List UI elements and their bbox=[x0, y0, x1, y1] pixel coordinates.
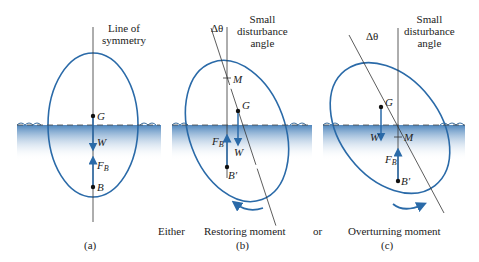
symmetry-label: Line ofsymmetry bbox=[102, 22, 146, 46]
caption-c: (c) bbox=[381, 239, 393, 251]
label-w-a: W bbox=[97, 136, 106, 148]
caption-b: (b) bbox=[236, 239, 249, 251]
point-g-a bbox=[91, 114, 95, 118]
label-m-b: M bbox=[233, 73, 242, 85]
panel-a bbox=[17, 27, 160, 222]
either-label: Either bbox=[158, 225, 185, 237]
or-label: or bbox=[313, 225, 322, 237]
point-b-c bbox=[396, 179, 400, 183]
caption-a: (a) bbox=[84, 239, 96, 251]
moment-label-c: Overturning moment bbox=[348, 225, 441, 237]
restoring-moment-arrow bbox=[236, 204, 263, 210]
label-b-a: B bbox=[97, 181, 104, 193]
point-b-a bbox=[91, 185, 95, 189]
point-g-c bbox=[379, 105, 383, 109]
overturning-moment-arrow bbox=[393, 204, 422, 209]
label-b-c: B' bbox=[401, 175, 410, 187]
label-w-c: W bbox=[370, 131, 379, 143]
label-w-b: W bbox=[234, 146, 243, 158]
angle-desc-c: Smalldisturbanceangle bbox=[404, 13, 455, 49]
label-m-c: M bbox=[404, 131, 413, 143]
label-g-b: G bbox=[242, 99, 250, 111]
tilted-axis-c bbox=[349, 35, 444, 213]
angle-desc-b: Smalldisturbanceangle bbox=[237, 13, 288, 49]
moment-label-b: Restoring moment bbox=[204, 225, 286, 237]
label-g-c: G bbox=[385, 96, 393, 108]
angle-label-c: Δθ bbox=[366, 30, 378, 42]
panel-c bbox=[306, 28, 475, 216]
angle-label-b: Δθ bbox=[211, 22, 223, 34]
label-g-a: G bbox=[97, 110, 105, 122]
label-fb-a: FB bbox=[97, 159, 109, 175]
label-b-b: B' bbox=[228, 169, 237, 181]
point-g-b bbox=[236, 109, 240, 113]
label-fb-b: FB bbox=[212, 135, 224, 151]
label-fb-c: FB bbox=[385, 153, 397, 169]
